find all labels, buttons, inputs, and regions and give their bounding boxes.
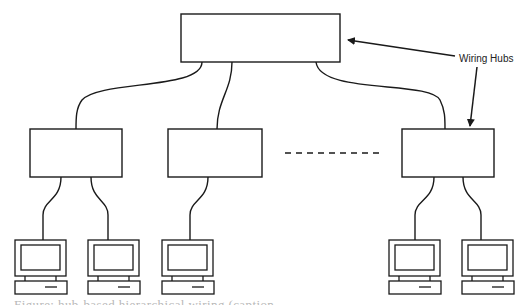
cable-hub1-to-pc2 [91,177,108,240]
root-hub-box [181,14,340,62]
cable-root-to-hub-2 [217,62,232,129]
cable-hub2-to-pc3 [190,177,208,240]
computer-icon [88,240,140,294]
computer-icon [15,240,67,294]
computer-icon [462,240,514,294]
figure-caption-cropped: Figure: hub-based hierarchical wiring (c… [14,298,274,305]
computer-icon [389,240,441,294]
arrow-to-root-hub [348,40,455,56]
arrow-to-hub-3 [470,67,477,126]
hub-box-2 [168,129,262,177]
computer-icon [162,240,214,294]
hub-box-1 [30,129,122,177]
cable-hub3-to-pc4 [415,177,434,240]
wiring-hubs-label: Wiring Hubs [459,53,513,64]
cable-root-to-hub-3 [316,62,445,129]
cable-hub1-to-pc1 [43,177,61,240]
cable-hub3-to-pc5 [463,177,481,240]
wiring-hub-diagram: Wiring Hubs [0,0,525,305]
hub-box-3 [402,129,494,177]
cable-root-to-hub-1 [76,62,202,129]
